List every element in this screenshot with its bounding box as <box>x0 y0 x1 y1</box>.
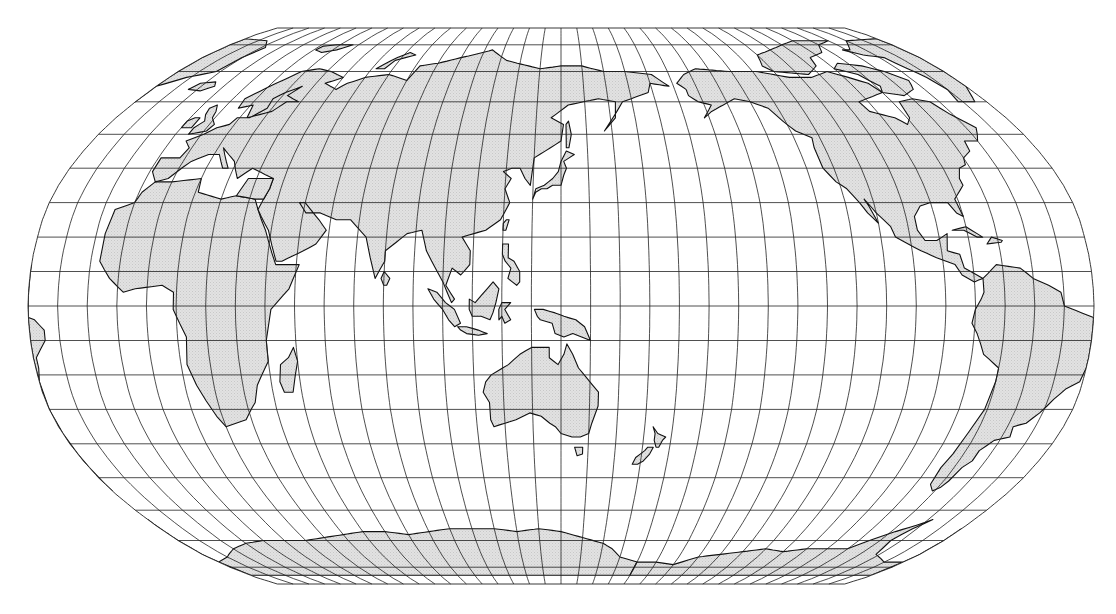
world-map <box>0 0 1116 614</box>
landmass-sri-lanka <box>381 272 390 286</box>
landmass-sumatra <box>428 289 461 327</box>
landmass-borneo <box>469 282 499 320</box>
landmass-south-america <box>28 265 112 491</box>
map-canvas <box>0 0 1116 614</box>
landmass-new-guinea <box>534 309 590 340</box>
landmass-hispaniola <box>987 237 1002 244</box>
landmass-tasmania <box>575 447 583 456</box>
landmass-taiwan <box>503 220 509 230</box>
landmass-south-america <box>931 265 1094 491</box>
landmass-madagascar <box>280 347 298 392</box>
landmass-novaya-zemlya <box>376 53 416 69</box>
landmass-north-america <box>677 69 983 282</box>
landmass-japan <box>533 151 575 199</box>
landmass-new-zealand-south <box>632 447 653 464</box>
landmass-australia <box>483 344 598 437</box>
landmass-philippines <box>502 244 519 285</box>
landmass-iceland <box>188 82 216 91</box>
